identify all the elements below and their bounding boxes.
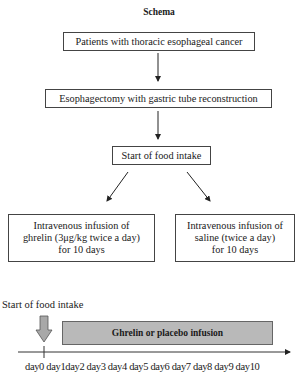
timeline-start-label: Start of food intake — [2, 299, 83, 310]
food-intake-down-arrow-icon — [36, 316, 52, 342]
infusion-period-label: Ghrelin or placebo infusion — [112, 328, 223, 338]
infusion-period-bar: Ghrelin or placebo infusion — [62, 321, 273, 345]
arrow-diag-left — [107, 172, 128, 201]
connector-arrows — [0, 0, 296, 376]
arrow-diag-right — [187, 172, 210, 201]
timeline-day-labels: day0 day1day2 day3 day4 day5 day6 day7 d… — [25, 361, 260, 372]
